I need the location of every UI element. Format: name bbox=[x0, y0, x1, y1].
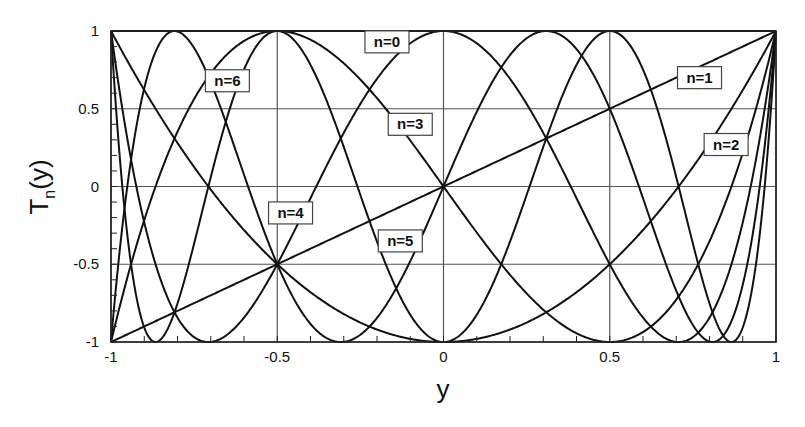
y-tick-label: 0.5 bbox=[78, 100, 99, 117]
x-tick-label: 0.5 bbox=[599, 348, 620, 365]
x-tick-label: 1 bbox=[772, 348, 780, 365]
y-tick-label: 1 bbox=[91, 22, 99, 39]
series-label-n-5: n=5 bbox=[378, 230, 422, 252]
series-label-n-6: n=6 bbox=[205, 70, 249, 92]
svg-text:n=2: n=2 bbox=[713, 136, 739, 153]
svg-text:Tn(y): Tn(y) bbox=[24, 159, 58, 214]
svg-text:n=0: n=0 bbox=[374, 33, 400, 50]
series-label-n-1: n=1 bbox=[678, 67, 722, 89]
x-tick-label: -1 bbox=[104, 348, 117, 365]
series-label-n-0: n=0 bbox=[365, 31, 409, 53]
y-axis-title-sub: n bbox=[41, 190, 58, 199]
svg-text:n=3: n=3 bbox=[397, 115, 423, 132]
y-axis-title-tail: (y) bbox=[24, 159, 54, 189]
y-tick-label: -0.5 bbox=[73, 255, 99, 272]
y-tick-label: 0 bbox=[91, 178, 99, 195]
y-tick-label: -1 bbox=[86, 333, 99, 350]
x-tick-label: -0.5 bbox=[264, 348, 290, 365]
y-tick-labels: 10.50-0.5-1 bbox=[73, 22, 99, 350]
svg-text:n=1: n=1 bbox=[686, 69, 712, 86]
y-axis-title: Tn(y) bbox=[24, 159, 58, 214]
series-label-n-3: n=3 bbox=[388, 113, 432, 135]
x-tick-label: 0 bbox=[439, 348, 447, 365]
chebyshev-chart: -1-0.500.51 10.50-0.5-1 n=0n=1n=2n=3n=4n… bbox=[0, 0, 805, 427]
series-label-n-2: n=2 bbox=[704, 134, 748, 156]
y-axis-title-main: T bbox=[24, 199, 54, 215]
svg-text:n=5: n=5 bbox=[387, 232, 413, 249]
x-axis-title: y bbox=[437, 374, 450, 404]
svg-text:n=6: n=6 bbox=[214, 72, 240, 89]
x-tick-labels: -1-0.500.51 bbox=[104, 348, 780, 365]
series-label-n-4: n=4 bbox=[269, 202, 313, 224]
svg-text:n=4: n=4 bbox=[277, 204, 304, 221]
